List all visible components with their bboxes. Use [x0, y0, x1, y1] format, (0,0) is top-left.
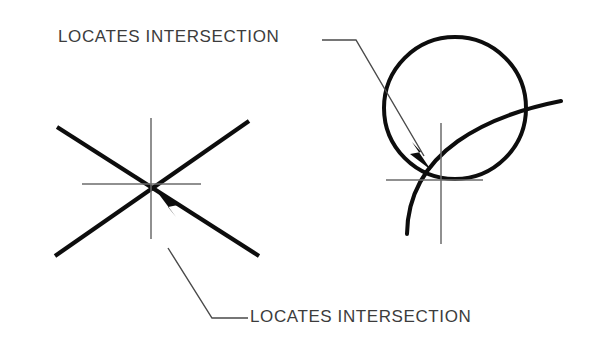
right-figure: [384, 37, 561, 244]
top-leader-line: [322, 40, 424, 156]
bottom-leader-line: [168, 248, 248, 318]
drawing-canvas: LOCATES INTERSECTION LOCATES INTERSECTIO…: [0, 0, 592, 364]
left-figure: [55, 118, 259, 256]
top-leader: [322, 40, 431, 170]
bottom-annotation-label: LOCATES INTERSECTION: [250, 308, 471, 325]
top-annotation-label: LOCATES INTERSECTION: [58, 28, 279, 45]
bottom-leader: [155, 189, 248, 318]
right-arc-curve: [407, 101, 561, 234]
left-diagonal-line-b: [55, 121, 249, 256]
bottom-leader-arrowhead: [155, 189, 178, 217]
right-circle: [384, 37, 526, 179]
